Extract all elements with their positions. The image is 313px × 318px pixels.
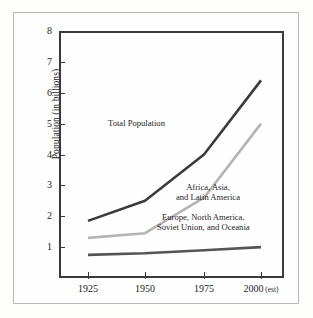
y-tick-label-7: 7 xyxy=(36,57,52,67)
y-tick-label-3: 3 xyxy=(36,180,52,190)
y-tick-label-4: 4 xyxy=(36,150,52,160)
annotation-developed-regions: Europe, North America, Soviet Union, and… xyxy=(157,212,250,232)
x-tick-mark-1975 xyxy=(204,272,205,279)
series-lines xyxy=(59,31,284,278)
annotation-developing-line1: Africa, Asia, xyxy=(176,182,240,192)
figure-canvas: Population (in billions) 87654321 192519… xyxy=(0,0,313,318)
annotation-total-population-line1: Total Population xyxy=(108,118,165,128)
annotation-developed-line1: Europe, North America, xyxy=(157,212,250,222)
x-tick-label-2000: 2000 (est) xyxy=(226,283,296,294)
x-tick-mark-2000 xyxy=(261,272,262,279)
annotation-developing-line2: and Latin America xyxy=(176,192,240,202)
y-tick-label-5: 5 xyxy=(36,119,52,129)
y-tick-label-1: 1 xyxy=(36,242,52,252)
y-tick-label-6: 6 xyxy=(36,88,52,98)
x-tick-mark-1950 xyxy=(145,272,146,279)
x-tick-mark-1925 xyxy=(88,272,89,279)
y-tick-label-2: 2 xyxy=(36,211,52,221)
y-tick-label-8: 8 xyxy=(36,26,52,36)
x-tick-label-year: 2000 xyxy=(243,283,263,294)
plot-area xyxy=(59,31,284,278)
series-line-2 xyxy=(88,247,261,255)
annotation-developing-regions: Africa, Asia, and Latin America xyxy=(176,182,240,202)
x-tick-label-est-suffix: (est) xyxy=(263,285,278,294)
annotation-developed-line2: Soviet Union, and Oceania xyxy=(157,222,250,232)
annotation-total-population: Total Population xyxy=(108,118,165,128)
